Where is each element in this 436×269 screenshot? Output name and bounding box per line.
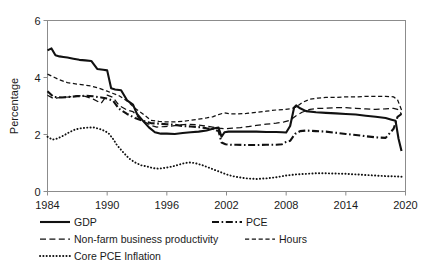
x-tick-label: 2020 xyxy=(393,199,417,211)
line-chart: 0246 1984199019962002200820142020 Percen… xyxy=(0,0,436,269)
y-tick-label: 2 xyxy=(34,129,40,141)
y-tick-label: 0 xyxy=(34,186,40,198)
x-tick-label: 2002 xyxy=(214,199,238,211)
x-tick-label: 2014 xyxy=(334,199,358,211)
legend-label: Hours xyxy=(279,233,307,245)
legend-label: Non-farm business productivity xyxy=(74,233,219,245)
y-tick-label: 4 xyxy=(34,72,40,84)
chart-figure: 0246 1984199019962002200820142020 Percen… xyxy=(0,0,436,269)
x-tick-label: 1984 xyxy=(35,199,59,211)
legend-label: PCE xyxy=(246,216,268,228)
y-tick-label: 6 xyxy=(34,15,40,27)
x-tick-label: 2008 xyxy=(274,199,298,211)
y-axis-label: Percentage xyxy=(8,78,20,134)
x-tick-label: 1990 xyxy=(95,199,119,211)
legend-label: GDP xyxy=(74,216,97,228)
legend-label: Core PCE Inflation xyxy=(74,250,161,262)
x-tick-label: 1996 xyxy=(155,199,179,211)
